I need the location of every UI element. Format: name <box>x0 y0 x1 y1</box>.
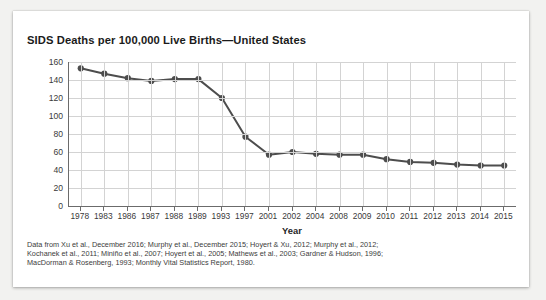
x-gridline <box>434 62 435 206</box>
x-tick-label: 2012 <box>423 211 442 221</box>
x-tick-label: 1987 <box>141 211 160 221</box>
x-gridline <box>316 62 317 206</box>
x-tickmark <box>127 207 128 211</box>
x-tick-label: 2004 <box>306 211 325 221</box>
y-tick-label: 140 <box>23 75 63 85</box>
footnote-line-1: Data from Xu et al., December 2016; Murp… <box>27 240 517 249</box>
x-tickmark <box>315 207 316 211</box>
x-gridline <box>293 62 294 206</box>
x-tickmark <box>433 207 434 211</box>
x-tick-label: 1989 <box>188 211 207 221</box>
x-gridline <box>340 62 341 206</box>
footnote-line-3: MacDorman & Rosenberg, 1993; Monthly Vit… <box>27 258 517 267</box>
chart-title: SIDS Deaths per 100,000 Live Births—Unit… <box>27 34 306 46</box>
x-tick-label: 1988 <box>165 211 184 221</box>
x-tickmark <box>386 207 387 211</box>
x-gridline <box>481 62 482 206</box>
x-tick-label: 2002 <box>282 211 301 221</box>
y-tick-label: 40 <box>23 165 63 175</box>
x-tickmark <box>362 207 363 211</box>
x-tickmark <box>292 207 293 211</box>
x-tickmark <box>103 207 104 211</box>
x-tickmark <box>80 207 81 211</box>
y-tick-label: 100 <box>23 111 63 121</box>
x-axis-title: Year <box>68 225 516 236</box>
x-tickmark <box>150 207 151 211</box>
x-tick-label: 2013 <box>447 211 466 221</box>
x-gridline <box>269 62 270 206</box>
x-tickmark <box>409 207 410 211</box>
x-gridline <box>410 62 411 206</box>
x-tickmark <box>339 207 340 211</box>
screenshot-page: SIDS Deaths per 100,000 Live Births—Unit… <box>0 0 546 300</box>
y-tick-label: 60 <box>23 147 63 157</box>
x-tick-label: 1986 <box>117 211 136 221</box>
x-gridline <box>245 62 246 206</box>
x-tick-label: 1997 <box>235 211 254 221</box>
y-tick-label: 0 <box>23 201 63 211</box>
y-tick-label: 20 <box>23 183 63 193</box>
x-gridline <box>222 62 223 206</box>
x-gridline <box>198 62 199 206</box>
x-tickmark <box>503 207 504 211</box>
x-gridline <box>363 62 364 206</box>
y-tick-label: 160 <box>23 57 63 67</box>
y-axis-labels: 020406080100120140160 <box>21 62 63 207</box>
x-tickmark <box>174 207 175 211</box>
x-tick-label: 2001 <box>259 211 278 221</box>
plot-area <box>68 62 516 207</box>
x-axis-labels: 1978198319861987198819891993199720012002… <box>68 211 516 225</box>
x-gridline <box>104 62 105 206</box>
x-gridline <box>387 62 388 206</box>
source-footnote: Data from Xu et al., December 2016; Murp… <box>27 240 517 267</box>
x-gridline <box>128 62 129 206</box>
x-tick-label: 1978 <box>70 211 89 221</box>
x-tick-label: 1983 <box>94 211 113 221</box>
y-tick-label: 120 <box>23 93 63 103</box>
x-gridline <box>151 62 152 206</box>
x-gridline <box>175 62 176 206</box>
x-tick-label: 2011 <box>400 211 418 221</box>
x-tick-label: 2008 <box>329 211 348 221</box>
chart-card: SIDS Deaths per 100,000 Live Births—Unit… <box>13 11 529 287</box>
x-tickmark <box>197 207 198 211</box>
x-tickmark <box>221 207 222 211</box>
x-tick-label: 2010 <box>376 211 395 221</box>
x-tickmark <box>268 207 269 211</box>
x-tick-label: 2014 <box>470 211 489 221</box>
x-tickmark <box>480 207 481 211</box>
x-tickmark <box>244 207 245 211</box>
x-gridline <box>81 62 82 206</box>
y-tick-label: 80 <box>23 129 63 139</box>
x-gridline <box>457 62 458 206</box>
x-tick-label: 2015 <box>494 211 513 221</box>
x-tickmark <box>456 207 457 211</box>
x-tick-label: 2009 <box>353 211 372 221</box>
x-tick-label: 1993 <box>212 211 231 221</box>
x-gridline <box>504 62 505 206</box>
footnote-line-2: Kochanek et al., 2011; Miniño et al., 20… <box>27 249 517 258</box>
